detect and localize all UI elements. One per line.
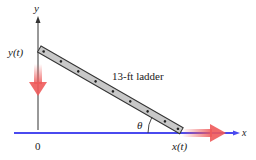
x-position-label: x(t)	[171, 140, 188, 153]
y-position-label: y(t)	[7, 46, 24, 59]
angle-label: θ	[137, 119, 143, 131]
ladder-diagram: y x y(t) x(t) 0 θ 13-ft ladder	[0, 0, 256, 160]
y-axis-label: y	[33, 2, 39, 14]
ladder-label: 13-ft ladder	[112, 70, 164, 82]
angle-arc	[148, 117, 152, 133]
origin-label: 0	[35, 140, 41, 152]
ladder	[38, 46, 184, 134]
downward-motion-arrow	[29, 64, 47, 96]
x-axis-label: x	[241, 127, 247, 138]
rightward-motion-arrow	[182, 124, 226, 142]
y-axis-arrow-icon	[36, 16, 41, 23]
x-axis-arrow-icon	[233, 131, 240, 136]
